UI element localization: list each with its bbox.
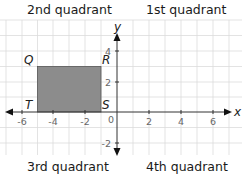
origin-label: 0 [108, 114, 114, 125]
y-axis [114, 33, 121, 156]
x-tick-6: 6 [210, 116, 216, 127]
coordinate-grid: -6 -4 -2 2 4 6 0 4 2 -2 x y Q R S T [0, 0, 242, 178]
y-tick-2: 2 [105, 77, 111, 88]
y-axis-down-arrow-icon [114, 148, 121, 156]
y-axis-up-arrow-icon [114, 33, 121, 41]
x-axis-right-arrow-icon [224, 109, 232, 116]
x-axis-label: x [233, 105, 242, 119]
y-tick-neg2: -2 [102, 138, 111, 149]
x-tick-neg4: -4 [48, 116, 57, 127]
x-tick-neg2: -2 [80, 116, 89, 127]
vertex-r-label: R [102, 53, 110, 67]
vertex-q-label: Q [24, 53, 33, 67]
rectangle-qrst [38, 67, 102, 113]
x-tick-4: 4 [178, 116, 184, 127]
x-tick-2: 2 [146, 116, 152, 127]
y-axis-label: y [113, 20, 122, 34]
vertex-t-label: T [25, 98, 34, 112]
grid-lines [0, 20, 242, 155]
x-tick-neg6: -6 [17, 116, 26, 127]
vertex-s-label: S [102, 98, 110, 112]
